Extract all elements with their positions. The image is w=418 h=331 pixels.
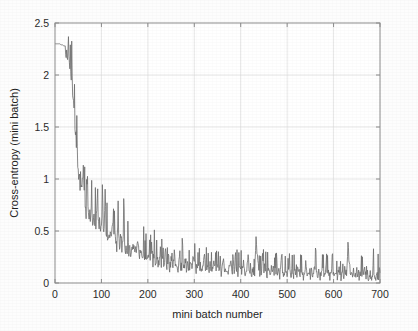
plot-area-background: [55, 23, 380, 283]
x-axis-tick-labels: 0100200300400500600700: [52, 288, 389, 300]
y-tick-label: 0.5: [34, 225, 49, 237]
x-tick-label: 100: [93, 288, 111, 300]
x-tick-label: 300: [186, 288, 204, 300]
y-axis-tick-labels: 00.511.522.5: [34, 17, 49, 289]
y-tick-label: 2.5: [34, 17, 49, 29]
y-tick-label: 1: [43, 173, 49, 185]
x-tick-label: 500: [278, 288, 296, 300]
y-tick-label: 2: [43, 69, 49, 81]
y-tick-label: 1.5: [34, 121, 49, 133]
x-tick-label: 400: [232, 288, 250, 300]
x-tick-label: 700: [371, 288, 389, 300]
y-tick-label: 0: [43, 277, 49, 289]
figure-canvas: 0100200300400500600700 00.511.522.5 mini…: [0, 0, 418, 331]
x-tick-label: 600: [325, 288, 343, 300]
x-tick-label: 0: [52, 288, 58, 300]
y-axis-title: Cross-entropy (mini batch): [8, 88, 20, 218]
x-axis-title: mini batch number: [172, 308, 263, 320]
cross-entropy-line-chart: 0100200300400500600700 00.511.522.5 mini…: [0, 0, 418, 331]
x-tick-label: 200: [139, 288, 157, 300]
